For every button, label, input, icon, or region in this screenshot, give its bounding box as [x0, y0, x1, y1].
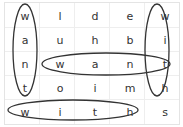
circle-with-vertical [145, 4, 169, 96]
circle-want-vertical [13, 4, 37, 96]
circle-with-horizontal [8, 100, 138, 120]
circle-want-horizontal [42, 53, 170, 75]
found-word-circles [0, 0, 183, 127]
